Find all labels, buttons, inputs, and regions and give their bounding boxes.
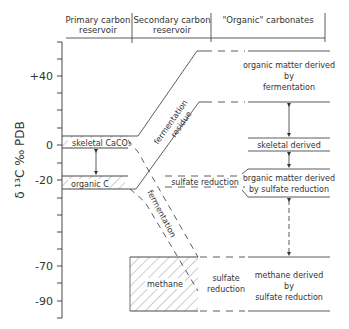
methane-derived-line3: sulfate reduction — [255, 293, 323, 302]
tick-label: -20 — [35, 174, 53, 187]
methane-reservoir: methane — [130, 257, 198, 311]
methane-label: methane — [147, 280, 183, 289]
y-axis: +40 0 -20 -70 -90 δ ¹³C ‰ PDB — [13, 42, 62, 318]
skeletal-caco3-label: skeletal CaCO₃ — [72, 139, 131, 148]
methane-derived-line1: methane derived — [255, 271, 324, 280]
fermentation-derived-line1: organic matter derived — [243, 61, 335, 70]
fermentation-derived-line2: by — [284, 72, 294, 81]
fermentation-label: fermentation — [145, 189, 177, 239]
sulfate-reduction-low-line1: sulfate — [212, 274, 239, 283]
header-organic: "Organic" carbonates — [222, 15, 314, 25]
header-primary-line2: reservoir — [79, 25, 117, 35]
sulfate-derived-line2: by sulfate reduction — [249, 185, 329, 194]
fermentation-derived-line3: fermentation — [263, 83, 315, 92]
tick-label: 0 — [46, 139, 53, 152]
primary-reservoir: skeletal CaCO₃ organic C — [62, 136, 131, 189]
carbon-isotope-diagram: Primary carbon reservoir Secondary carbo… — [0, 0, 349, 329]
tick-label: -70 — [35, 260, 53, 273]
tick-label: -90 — [35, 295, 53, 308]
fermentation-residue-band: fermentation residue — [128, 51, 205, 189]
column-headers: Primary carbon reservoir Secondary carbo… — [66, 13, 325, 43]
header-secondary-line1: Secondary carbon — [133, 15, 210, 25]
methane-derived-line2: by — [284, 282, 294, 291]
organic-c-label: organic C — [71, 180, 109, 189]
sulfate-reduction-label: sulfate reduction — [171, 178, 239, 187]
sulfate-derived-line1: organic matter derived — [243, 174, 335, 183]
skeletal-derived-label: skeletal derived — [257, 141, 321, 150]
header-primary-line1: Primary carbon — [66, 15, 131, 25]
header-secondary-line2: reservoir — [153, 25, 191, 35]
tick-label: +40 — [30, 70, 53, 83]
sulfate-reduction-low-line2: reduction — [207, 285, 245, 294]
y-axis-label: δ ¹³C ‰ PDB — [13, 121, 27, 199]
